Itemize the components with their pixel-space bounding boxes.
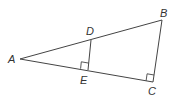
label-d: D [86,25,94,37]
geometry-diagram: A B C D E [0,0,180,101]
segment-bc [153,20,162,82]
label-c: C [148,85,156,97]
label-b: B [160,7,167,19]
right-angle-marker-e [81,62,89,69]
label-e: E [80,74,88,86]
label-a: A [7,53,15,65]
segment-de [88,40,91,70]
